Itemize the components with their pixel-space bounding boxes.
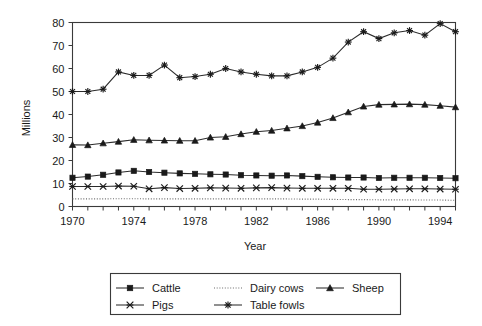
marker-square <box>346 175 351 180</box>
y-tick-label: 40 <box>52 109 64 121</box>
marker-square <box>127 285 132 290</box>
y-tick-label: 30 <box>52 132 64 144</box>
marker-square <box>453 176 458 181</box>
marker-x-star <box>238 185 244 191</box>
series-path <box>73 171 456 178</box>
marker-x-star <box>115 183 121 189</box>
marker-square <box>238 173 243 178</box>
marker-asterisk <box>284 72 291 79</box>
marker-asterisk <box>330 55 337 62</box>
x-tick-label: 1970 <box>60 215 84 227</box>
marker-square <box>192 171 197 176</box>
marker-x-star <box>376 186 382 192</box>
marker-x-star <box>131 183 137 189</box>
series-cattle <box>70 168 458 181</box>
series-sheep <box>69 101 458 148</box>
series-path <box>73 199 456 201</box>
chart-svg: 01020304050607080 1970197419781982198619… <box>0 0 482 326</box>
legend-item-cattle[interactable]: Cattle <box>116 282 181 294</box>
marker-asterisk <box>192 73 199 80</box>
marker-x-star <box>85 183 91 189</box>
marker-x-star <box>192 185 198 191</box>
marker-asterisk <box>130 72 137 79</box>
marker-square <box>284 173 289 178</box>
marker-x-star <box>345 185 351 191</box>
marker-square <box>422 175 427 180</box>
marker-x-star <box>268 184 274 190</box>
y-tick-label: 70 <box>52 40 64 52</box>
marker-x-star <box>161 184 167 190</box>
marker-x-star <box>422 186 428 192</box>
marker-asterisk <box>161 62 168 69</box>
y-tick-label: 10 <box>52 178 64 190</box>
marker-square <box>407 175 412 180</box>
marker-asterisk <box>391 29 398 36</box>
marker-x-star <box>360 186 366 192</box>
marker-x-star <box>127 302 134 309</box>
legend-item-sheep[interactable]: Sheep <box>316 282 384 294</box>
marker-asterisk <box>69 88 76 95</box>
marker-square <box>116 170 121 175</box>
marker-asterisk <box>452 28 459 35</box>
x-tick-label: 1990 <box>367 215 391 227</box>
series-dairy-cows <box>73 199 456 201</box>
marker-asterisk <box>115 69 122 76</box>
legend-label: Cattle <box>152 282 181 294</box>
marker-square <box>101 172 106 177</box>
marker-asterisk <box>376 35 383 42</box>
x-tick-label: 1994 <box>428 215 452 227</box>
y-tick-label: 80 <box>52 17 64 29</box>
marker-x-star <box>314 185 320 191</box>
marker-x-star <box>253 185 259 191</box>
marker-asterisk <box>238 69 245 76</box>
legend-label: Table fowls <box>250 299 305 311</box>
marker-square <box>177 171 182 176</box>
marker-square <box>300 174 305 179</box>
legend-label: Dairy cows <box>250 282 304 294</box>
marker-square <box>376 175 381 180</box>
marker-asterisk <box>224 301 231 308</box>
marker-square <box>361 175 366 180</box>
plot-area-border <box>73 23 456 207</box>
x-axis-title: Year <box>244 240 267 252</box>
legend-item-table-fowls[interactable]: Table fowls <box>214 299 305 311</box>
legend-items: CattleDairy cowsSheepPigsTable fowls <box>116 282 384 311</box>
y-tick-label: 0 <box>58 201 64 213</box>
legend-label: Sheep <box>352 282 384 294</box>
marker-asterisk <box>146 72 153 79</box>
marker-square <box>392 175 397 180</box>
marker-square <box>85 174 90 179</box>
marker-asterisk <box>437 20 444 27</box>
marker-x-star <box>284 185 290 191</box>
marker-x-star <box>299 185 305 191</box>
marker-asterisk <box>84 88 91 95</box>
marker-square <box>208 172 213 177</box>
marker-asterisk <box>100 86 107 93</box>
legend-item-dairy-cows[interactable]: Dairy cows <box>214 282 304 294</box>
series-layer <box>69 20 459 200</box>
marker-asterisk <box>314 64 321 71</box>
marker-asterisk <box>268 72 275 79</box>
series-path <box>73 104 456 145</box>
series-path <box>73 186 456 189</box>
series-pigs <box>69 183 458 193</box>
plot-frame <box>73 23 456 207</box>
marker-square <box>70 175 75 180</box>
y-tick-label: 50 <box>52 86 64 98</box>
marker-square <box>254 173 259 178</box>
marker-square <box>330 175 335 180</box>
marker-asterisk <box>253 71 260 78</box>
marker-square <box>162 170 167 175</box>
marker-asterisk <box>222 65 229 72</box>
series-table-fowls <box>69 20 459 95</box>
marker-x-star <box>391 186 397 192</box>
y-tick-label: 60 <box>52 63 64 75</box>
marker-x-star <box>146 186 152 192</box>
marker-x-star <box>406 186 412 192</box>
marker-asterisk <box>406 27 413 34</box>
marker-square <box>131 168 136 173</box>
legend-label: Pigs <box>152 299 174 311</box>
marker-x-star <box>223 185 229 191</box>
legend-item-pigs[interactable]: Pigs <box>116 299 174 311</box>
marker-x-star <box>100 183 106 189</box>
